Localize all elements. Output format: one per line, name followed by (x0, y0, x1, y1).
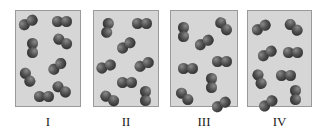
atom-sphere (126, 77, 137, 88)
atom-sphere (221, 56, 232, 67)
atom-sphere (43, 91, 54, 102)
atom-sphere (292, 47, 303, 58)
atom-sphere (207, 82, 218, 93)
atom-sphere (101, 26, 114, 39)
panel-i (15, 10, 81, 107)
atom-sphere (141, 95, 152, 106)
atom-sphere (28, 47, 39, 58)
atom-sphere (291, 94, 302, 105)
panel-label-ii: II (93, 114, 159, 130)
panel-ii (93, 10, 159, 107)
panel-iv (247, 10, 312, 107)
atom-sphere (141, 18, 152, 29)
panel-label-i: I (15, 114, 81, 130)
atom-sphere (61, 16, 72, 27)
panel-iii (170, 10, 238, 107)
panel-label-iv: IV (247, 114, 312, 130)
atom-sphere (187, 63, 198, 74)
atom-sphere (254, 76, 268, 90)
panel-label-iii: III (170, 114, 238, 130)
atom-sphere (285, 70, 296, 81)
atom-sphere (179, 31, 190, 42)
